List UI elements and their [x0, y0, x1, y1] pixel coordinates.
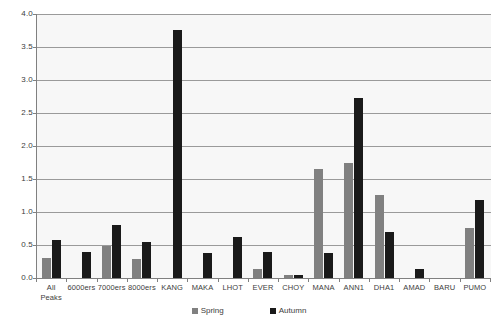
bar-group	[248, 0, 278, 278]
y-tick-label: 3.0	[3, 76, 33, 84]
legend-swatch-icon	[270, 308, 276, 314]
legend-label: Autumn	[279, 307, 307, 315]
bar-spring	[253, 269, 262, 278]
legend-label: Spring	[201, 307, 224, 315]
bar-group	[157, 0, 187, 278]
bar-autumn	[112, 225, 121, 278]
bar-spring	[314, 169, 323, 278]
bar-spring	[465, 228, 474, 278]
y-tick-label: 4.0	[3, 10, 33, 18]
x-tick-mark	[339, 279, 340, 282]
bars-layer	[36, 0, 491, 278]
chart-legend: SpringAutumn	[0, 304, 498, 318]
legend-item[interactable]: Autumn	[270, 307, 307, 315]
bar-spring	[102, 246, 111, 278]
x-tick-mark	[369, 279, 370, 282]
bar-group	[399, 0, 429, 278]
x-axis-baseline	[36, 278, 491, 279]
bar-spring	[375, 195, 384, 278]
x-tick-mark	[308, 279, 309, 282]
bar-group	[308, 0, 338, 278]
y-axis: 0.00.51.01.52.02.53.03.54.0	[0, 0, 33, 323]
y-tick-label: 1.5	[3, 175, 33, 183]
y-tick-label: 2.0	[3, 142, 33, 150]
x-tick-mark	[187, 279, 188, 282]
bar-group	[36, 0, 66, 278]
x-tick-mark	[157, 279, 158, 282]
y-tick-label: 1.0	[3, 208, 33, 216]
bar-autumn	[233, 237, 242, 278]
bar-autumn	[415, 269, 424, 278]
bar-group	[429, 0, 459, 278]
bar-spring	[42, 258, 51, 278]
x-tick-mark	[218, 279, 219, 282]
bar-autumn	[475, 200, 484, 278]
bar-chart: 0.00.51.01.52.02.53.03.54.0 All Peaks600…	[0, 0, 498, 323]
x-tick-mark	[36, 279, 37, 282]
bar-spring	[344, 163, 353, 279]
bar-autumn	[385, 232, 394, 278]
x-tick-mark	[399, 279, 400, 282]
bar-group	[339, 0, 369, 278]
bar-group	[187, 0, 217, 278]
x-tick-mark	[490, 279, 491, 282]
bar-group	[218, 0, 248, 278]
bar-group	[97, 0, 127, 278]
bar-group	[66, 0, 96, 278]
legend-item[interactable]: Spring	[192, 307, 224, 315]
x-tick-mark	[429, 279, 430, 282]
x-tick-mark	[127, 279, 128, 282]
bar-autumn	[142, 242, 151, 278]
legend-swatch-icon	[192, 308, 198, 314]
bar-group	[127, 0, 157, 278]
bar-autumn	[52, 240, 61, 278]
x-tick-mark	[248, 279, 249, 282]
bar-autumn	[203, 253, 212, 278]
bar-group	[278, 0, 308, 278]
bar-group	[369, 0, 399, 278]
x-tick-label: PUMO	[456, 283, 494, 293]
x-tick-mark	[278, 279, 279, 282]
bar-autumn	[354, 98, 363, 278]
x-tick-mark	[460, 279, 461, 282]
y-tick-label: 2.5	[3, 109, 33, 117]
y-tick-label: 0.0	[3, 274, 33, 282]
bar-autumn	[82, 252, 91, 278]
bar-spring	[132, 259, 141, 278]
bar-autumn	[324, 253, 333, 278]
y-tick-label: 0.5	[3, 241, 33, 249]
y-tick-label: 3.5	[3, 43, 33, 51]
x-tick-mark	[66, 279, 67, 282]
bar-autumn	[263, 252, 272, 278]
bar-autumn	[173, 30, 182, 278]
x-tick-mark	[97, 279, 98, 282]
bar-group	[460, 0, 490, 278]
